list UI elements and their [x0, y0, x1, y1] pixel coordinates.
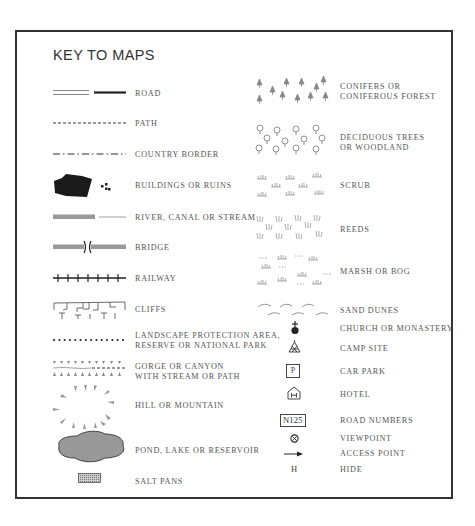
deciduous-icon	[255, 125, 335, 159]
salt-pans-icon	[78, 473, 102, 484]
camp-site-icon	[288, 340, 301, 353]
legend-label-path: PATH	[135, 119, 158, 129]
protected-area-icon	[53, 338, 128, 342]
legend-label-gorge-line2: WITH STREAM OR PATH	[135, 372, 240, 382]
road-icon	[53, 89, 128, 97]
legend-label-sand-dunes: SAND DUNES	[340, 306, 399, 316]
gorge-icon	[53, 361, 128, 377]
legend-label-deciduous-line2: OR WOODLAND	[340, 143, 409, 153]
page-title: KEY TO MAPS	[53, 47, 155, 63]
legend-label-church: CHURCH OR MONASTERY	[340, 324, 453, 334]
legend-label-road-numbers: ROAD NUMBERS	[340, 416, 413, 426]
legend-label-hide: HIDE	[340, 465, 362, 475]
legend-label-buildings: BUILDINGS OR RUINS	[135, 181, 232, 191]
legend-label-scrub: SCRUB	[340, 181, 370, 191]
legend-label-conifers-line2: CONIFEROUS FOREST	[340, 92, 436, 102]
legend-label-road: ROAD	[135, 89, 161, 99]
legend-label-country-border: COUNTRY BORDER	[135, 150, 219, 160]
railway-icon	[53, 273, 128, 283]
legend-label-protected-area-line2: RESERVE OR NATIONAL PARK	[135, 341, 267, 351]
legend-label-viewpoint: VIEWPOINT	[340, 434, 392, 444]
hill-icon	[50, 384, 130, 432]
country-border-icon	[53, 152, 128, 156]
legend-label-marsh: MARSH OR BOG	[340, 267, 410, 277]
legend-label-lake: POND, LAKE OR RESERVOIR	[135, 446, 260, 456]
legend-label-gorge-line1: GORGE OR CANYON	[135, 362, 224, 372]
viewpoint-icon	[290, 434, 299, 443]
legend-label-car-park: CAR PARK	[340, 367, 386, 377]
legend-label-hill: HILL OR MOUNTAIN	[135, 401, 224, 411]
hide-icon: H	[291, 464, 297, 474]
marsh-icon	[255, 255, 335, 291]
legend-label-camp-site: CAMP SITE	[340, 344, 389, 354]
reeds-icon	[255, 215, 335, 245]
car-park-icon: P	[286, 364, 300, 378]
legend-label-deciduous-line1: DECIDUOUS TREES	[340, 133, 425, 143]
path-icon	[53, 121, 128, 125]
access-point-icon	[284, 451, 304, 457]
legend-label-salt-pans: SALT PANS	[135, 477, 183, 487]
legend-label-reeds: REEDS	[340, 225, 369, 235]
legend-label-bridge: BRIDGE	[135, 243, 170, 253]
legend-label-protected-area-line1: LANDSCAPE PROTECTION AREA,	[135, 331, 280, 341]
legend-label-river: RIVER, CANAL OR STREAM	[135, 213, 256, 223]
hotel-icon	[287, 386, 301, 400]
legend-label-railway: RAILWAY	[135, 274, 176, 284]
road-number-icon: N125	[280, 414, 306, 427]
scrub-icon	[255, 173, 335, 199]
sand-dunes-icon	[256, 302, 336, 318]
buildings-icon	[52, 173, 117, 199]
lake-icon	[55, 428, 127, 464]
legend-label-cliffs: CLIFFS	[135, 305, 166, 315]
bridge-icon	[53, 240, 128, 254]
river-icon	[53, 214, 128, 220]
legend-label-access-point: ACCESS POINT	[340, 449, 406, 459]
legend-label-hotel: HOTEL	[340, 390, 370, 400]
cliffs-icon	[53, 300, 128, 320]
legend-label-conifers-line1: CONIFERS OR	[340, 82, 401, 92]
church-icon	[290, 321, 300, 335]
conifer-icon	[255, 77, 335, 107]
